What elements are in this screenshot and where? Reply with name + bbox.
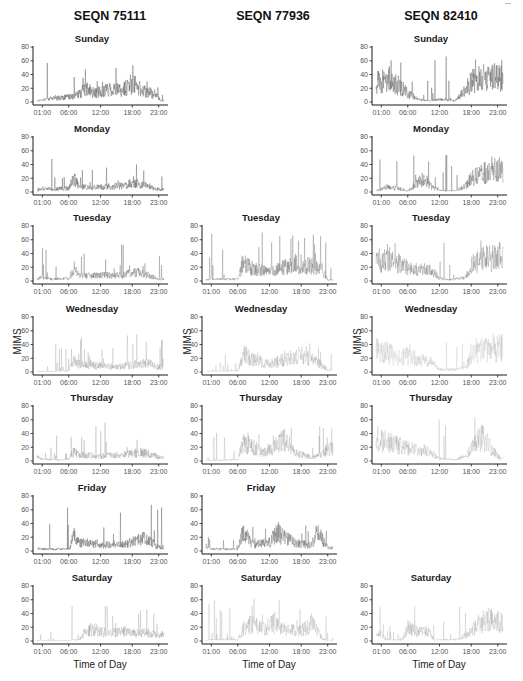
column-title-3: SEQN 82410 — [356, 9, 523, 23]
y-tick-label: 0 — [364, 188, 368, 195]
x-axis-label-col1: Time of Day — [30, 659, 170, 670]
x-tick-label: 18:00 — [292, 468, 310, 475]
y-tick-label: 20 — [360, 624, 368, 631]
x-tick-label: 23:00 — [319, 648, 337, 655]
y-tick-label: 80 — [360, 133, 368, 140]
y-tick-label: 40 — [21, 520, 29, 527]
x-tick-label: 23:00 — [150, 648, 168, 655]
y-tick-label: 0 — [25, 188, 29, 195]
x-tick-label: 06:00 — [229, 468, 247, 475]
y-tick-label: 0 — [25, 637, 29, 644]
x-tick-label: 18:00 — [462, 648, 480, 655]
mims-trace-line — [206, 233, 333, 281]
activity-trace-plot: 80604020001:0006:0012:0018:0023:00 — [169, 212, 339, 298]
y-tick-label: 40 — [360, 161, 368, 168]
y-tick-label: 80 — [21, 492, 29, 499]
y-tick-label: 80 — [190, 222, 198, 229]
x-tick-label: 18:00 — [462, 109, 480, 116]
y-tick-label: 40 — [21, 71, 29, 78]
x-tick-label: 01:00 — [34, 109, 52, 116]
y-tick-label: 80 — [360, 582, 368, 589]
panel-monday-col1: Monday80604020001:0006:0012:0018:0023:00 — [0, 123, 170, 209]
mims-trace-line — [206, 426, 333, 461]
y-tick-label: 60 — [360, 57, 368, 64]
x-tick-label: 06:00 — [60, 379, 78, 386]
x-tick-label: 23:00 — [489, 379, 507, 386]
x-tick-label: 12:00 — [431, 109, 449, 116]
x-tick-label: 12:00 — [431, 199, 449, 206]
activity-trace-plot: 80604020001:0006:0012:0018:0023:00 — [0, 572, 170, 658]
activity-trace-plot: 80604020001:0006:0012:0018:0023:00 — [169, 303, 339, 389]
x-tick-label: 18:00 — [123, 468, 141, 475]
y-tick-label: 60 — [190, 416, 198, 423]
x-tick-label: 23:00 — [489, 109, 507, 116]
y-tick-label: 0 — [194, 637, 198, 644]
panel-wednesday-col2: Wednesday80604020001:0006:0012:0018:0023… — [169, 303, 339, 389]
x-tick-label: 01:00 — [373, 109, 391, 116]
x-tick-label: 01:00 — [34, 648, 52, 655]
activity-trace-plot: 80604020001:0006:0012:0018:0023:00 — [339, 123, 509, 209]
x-tick-label: 01:00 — [203, 468, 221, 475]
y-axis-label-col3: MIMS — [352, 322, 363, 362]
y-tick-label: 40 — [360, 71, 368, 78]
y-tick-label: 0 — [364, 368, 368, 375]
x-tick-label: 23:00 — [489, 648, 507, 655]
x-tick-label: 12:00 — [431, 288, 449, 295]
mims-trace-line — [376, 417, 503, 460]
x-tick-label: 12:00 — [92, 288, 110, 295]
x-tick-label: 12:00 — [261, 648, 279, 655]
y-tick-label: 20 — [21, 624, 29, 631]
y-tick-label: 20 — [360, 264, 368, 271]
y-tick-label: 80 — [190, 402, 198, 409]
x-tick-label: 06:00 — [60, 288, 78, 295]
y-tick-label: 80 — [360, 402, 368, 409]
y-tick-label: 20 — [21, 264, 29, 271]
x-tick-label: 01:00 — [373, 648, 391, 655]
x-tick-label: 23:00 — [489, 199, 507, 206]
y-tick-label: 20 — [190, 264, 198, 271]
y-tick-label: 80 — [21, 402, 29, 409]
y-tick-label: 80 — [360, 313, 368, 320]
y-tick-label: 60 — [190, 236, 198, 243]
column-title-1: SEQN 75111 — [25, 9, 195, 23]
y-tick-label: 40 — [360, 610, 368, 617]
x-tick-label: 12:00 — [261, 468, 279, 475]
y-tick-label: 60 — [360, 236, 368, 243]
x-tick-label: 23:00 — [489, 468, 507, 475]
panel-thursday-col3: Thursday80604020001:0006:0012:0018:0023:… — [339, 392, 509, 478]
x-tick-label: 18:00 — [123, 558, 141, 565]
panel-saturday-col2: Saturday80604020001:0006:0012:0018:0023:… — [169, 572, 339, 658]
panel-sunday-col1: Sunday80604020001:0006:0012:0018:0023:00 — [0, 33, 170, 119]
activity-trace-plot: 80604020001:0006:0012:0018:0023:00 — [339, 33, 509, 119]
y-tick-label: 80 — [21, 582, 29, 589]
mims-trace-line — [206, 343, 333, 372]
panel-friday-col2: Friday80604020001:0006:0012:0018:0023:00 — [169, 482, 339, 568]
y-tick-label: 0 — [194, 277, 198, 284]
y-tick-label: 80 — [21, 313, 29, 320]
mims-trace-line — [37, 245, 164, 281]
y-tick-label: 0 — [364, 98, 368, 105]
mims-trace-line — [376, 155, 503, 192]
y-tick-label: 60 — [360, 596, 368, 603]
panel-sunday-col3: Sunday80604020001:0006:0012:0018:0023:00 — [339, 33, 509, 119]
x-tick-label: 12:00 — [261, 558, 279, 565]
x-tick-label: 01:00 — [34, 558, 52, 565]
x-tick-label: 01:00 — [34, 379, 52, 386]
x-tick-label: 23:00 — [319, 288, 337, 295]
x-tick-label: 23:00 — [319, 468, 337, 475]
x-tick-label: 12:00 — [431, 648, 449, 655]
mims-trace-line — [206, 599, 333, 641]
x-axis-label-col2: Time of Day — [199, 659, 339, 670]
y-tick-label: 0 — [25, 457, 29, 464]
x-tick-label: 12:00 — [92, 109, 110, 116]
x-tick-label: 23:00 — [150, 379, 168, 386]
x-tick-label: 18:00 — [462, 468, 480, 475]
panel-tuesday-col2: Tuesday80604020001:0006:0012:0018:0023:0… — [169, 212, 339, 298]
activity-trace-plot: 80604020001:0006:0012:0018:0023:00 — [169, 482, 339, 568]
x-tick-label: 12:00 — [261, 379, 279, 386]
y-tick-label: 40 — [21, 250, 29, 257]
panel-saturday-col3: Saturday80604020001:0006:0012:0018:0023:… — [339, 572, 509, 658]
y-tick-label: 60 — [190, 596, 198, 603]
x-tick-label: 12:00 — [92, 379, 110, 386]
mims-trace-line — [376, 606, 503, 640]
